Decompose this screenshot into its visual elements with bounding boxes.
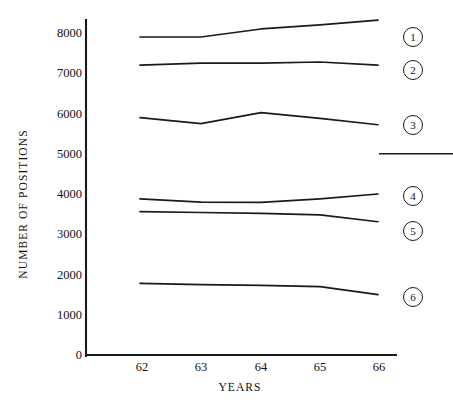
series-badge-6: 6 [403,287,423,307]
series-badge-5: 5 [403,221,423,241]
series-line-2 [140,62,378,65]
series-line-6 [140,283,378,294]
series-badge-3: 3 [403,115,423,135]
series-line-5 [140,212,378,222]
series-line-4 [140,194,378,202]
series-lines [140,20,378,295]
line-chart: NUMBER OF POSITIONS 01000200030004000500… [0,0,453,407]
series-badge-1: 1 [403,27,423,47]
axes [86,20,396,356]
series-badge-4: 4 [403,186,423,206]
series-line-1 [140,20,378,37]
series-badge-2: 2 [403,60,423,80]
series-line-3 [140,113,378,125]
plot-area [0,0,453,407]
